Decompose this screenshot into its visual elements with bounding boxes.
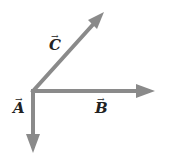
vector-arrow-symbol: →	[51, 32, 59, 41]
vector-b-arrowhead	[136, 84, 155, 98]
vector-b-label: → B	[95, 101, 108, 116]
vector-a-arrowhead	[26, 134, 40, 153]
vector-c-label: → C	[49, 38, 61, 53]
vector-arrow-symbol: →	[97, 95, 105, 104]
vector-c-line	[33, 19, 98, 91]
vector-a-label: → A	[13, 101, 25, 116]
vector-diagram	[0, 0, 169, 156]
vector-arrow-symbol: →	[15, 95, 23, 104]
